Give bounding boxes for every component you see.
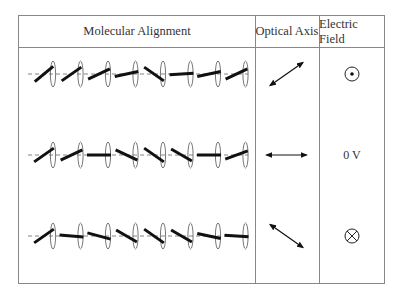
molecule bbox=[87, 142, 111, 168]
molecule-rod bbox=[170, 73, 194, 75]
cross-in-circle-icon bbox=[345, 229, 359, 243]
molecule-rod bbox=[171, 230, 192, 242]
diagram-canvas: 0 V bbox=[0, 0, 403, 299]
row-positive-field bbox=[28, 61, 359, 87]
molecule-rod bbox=[225, 235, 249, 236]
molecule bbox=[225, 223, 249, 249]
row-zero-field: 0 V bbox=[28, 142, 361, 168]
dot-in-circle-icon bbox=[345, 67, 359, 81]
molecule bbox=[226, 61, 248, 87]
molecule-rod bbox=[226, 69, 248, 79]
optical-axis-arrow-icon bbox=[270, 225, 303, 248]
row-negative-field bbox=[28, 223, 359, 249]
molecule-rod bbox=[225, 151, 248, 159]
molecule bbox=[60, 223, 84, 249]
molecule-rod bbox=[171, 149, 192, 161]
electric-field-label: 0 V bbox=[343, 148, 361, 162]
molecule-rod bbox=[60, 235, 84, 237]
molecule bbox=[225, 142, 248, 168]
molecule bbox=[170, 61, 194, 87]
molecule bbox=[197, 142, 221, 168]
optical-axis-arrow-icon bbox=[270, 63, 303, 86]
